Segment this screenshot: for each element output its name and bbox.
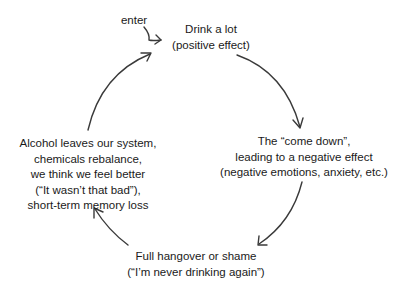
- entry-label: enter: [118, 13, 150, 29]
- node-come-down-line-1: The “come down”,: [205, 134, 403, 150]
- arrow-comedown-to-hangover-icon: [258, 182, 302, 245]
- arrow-drink-to-comedown-icon: [237, 55, 303, 128]
- node-drink-line-2: (positive effect): [150, 38, 272, 54]
- node-drink: Drink a lot (positive effect): [150, 22, 272, 53]
- node-come-down-line-3: (negative emotions, anxiety, etc.): [205, 165, 403, 181]
- arrow-hangover-to-rebalance-icon: [94, 208, 128, 245]
- node-hangover-line-2: (“I’m never drinking again”): [120, 265, 272, 281]
- node-drink-line-1: Drink a lot: [150, 22, 272, 38]
- arrow-rebalance-to-drink-icon: [88, 53, 151, 130]
- node-rebalance: Alcohol leaves our system, chemicals reb…: [8, 136, 168, 214]
- node-come-down: The “come down”, leading to a negative e…: [205, 134, 403, 181]
- node-rebalance-line-1: Alcohol leaves our system,: [8, 136, 168, 152]
- node-rebalance-line-3: we think we feel better: [8, 167, 168, 183]
- node-rebalance-line-4: (“It wasn’t that bad”),: [8, 183, 168, 199]
- node-rebalance-line-2: chemicals rebalance,: [8, 152, 168, 168]
- node-rebalance-line-5: short-term memory loss: [8, 198, 168, 214]
- node-hangover: Full hangover or shame (“I’m never drink…: [120, 249, 272, 280]
- node-hangover-line-1: Full hangover or shame: [120, 249, 272, 265]
- node-come-down-line-2: leading to a negative effect: [205, 150, 403, 166]
